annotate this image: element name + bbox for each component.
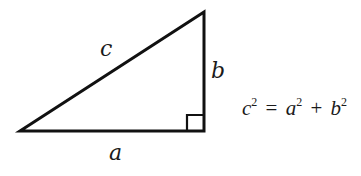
pythagorean-diagram: c b a c2 = a2 + b2 bbox=[0, 0, 361, 176]
eq-plus: + bbox=[307, 96, 325, 120]
pythagorean-equation: c2 = a2 + b2 bbox=[242, 96, 347, 119]
eq-term2-exp: 2 bbox=[341, 95, 347, 109]
horizontal-leg-label: a bbox=[109, 142, 122, 164]
vertical-leg-label: b bbox=[211, 60, 225, 82]
right-angle-marker bbox=[187, 115, 204, 131]
eq-term1-exp: 2 bbox=[296, 95, 302, 109]
eq-lhs-var: c bbox=[242, 96, 251, 120]
eq-term1-var: a bbox=[286, 96, 297, 120]
right-triangle bbox=[20, 12, 204, 131]
hypotenuse-label: c bbox=[100, 38, 112, 60]
triangle-figure bbox=[0, 0, 361, 176]
eq-lhs-exp: 2 bbox=[251, 95, 257, 109]
eq-equals: = bbox=[263, 96, 281, 120]
eq-term2-var: b bbox=[331, 96, 342, 120]
